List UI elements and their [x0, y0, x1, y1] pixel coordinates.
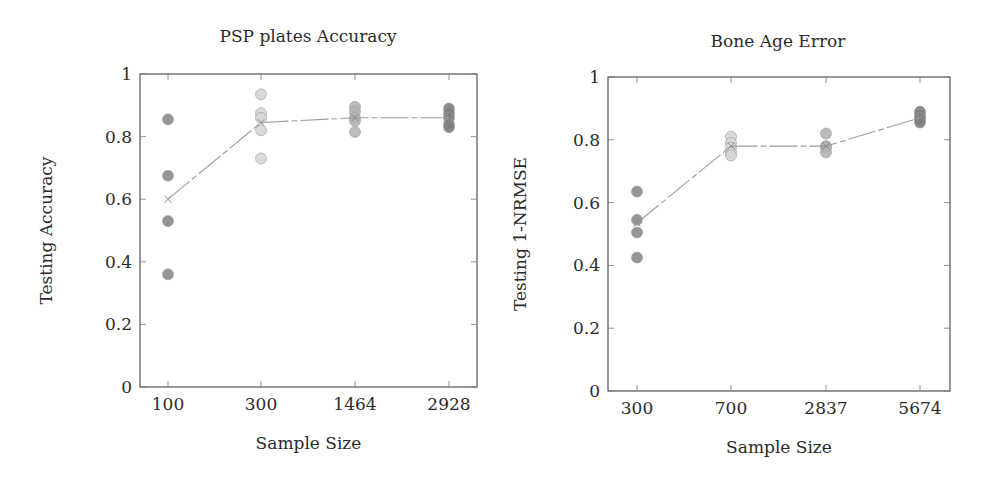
- y-tick-label: 1: [589, 67, 600, 87]
- data-point: [350, 115, 361, 126]
- data-point: [350, 126, 361, 137]
- y-tick-label: 0.8: [105, 127, 132, 147]
- data-point: [821, 128, 832, 139]
- data-point: [632, 186, 643, 197]
- data-point: [163, 170, 174, 181]
- charts-canvas: PSP plates Accuracy00.20.40.60.811003001…: [0, 0, 990, 483]
- data-point: [256, 153, 267, 164]
- x-tick-label: 300: [621, 398, 653, 418]
- y-tick-label: 0.6: [573, 193, 600, 213]
- data-point: [632, 227, 643, 238]
- x-tick-label: 300: [245, 394, 277, 414]
- mean-marker-icon: [165, 196, 172, 203]
- data-point: [256, 89, 267, 100]
- y-tick-label: 0.2: [573, 318, 600, 338]
- y-tick-label: 0.8: [573, 130, 600, 150]
- x-tick-label: 5674: [898, 398, 941, 418]
- y-tick-label: 0.2: [105, 314, 132, 334]
- plot-frame: [140, 74, 477, 387]
- data-point: [726, 150, 737, 161]
- data-point: [163, 269, 174, 280]
- chart-2: Bone Age Error00.20.40.60.81300700283756…: [510, 31, 950, 457]
- x-tick-label: 1464: [333, 394, 376, 414]
- data-point: [256, 125, 267, 136]
- y-tick-label: 0.4: [105, 252, 132, 272]
- x-tick-label: 100: [152, 394, 184, 414]
- data-point: [256, 112, 267, 123]
- y-tick-label: 0.6: [105, 189, 132, 209]
- chart-title: PSP plates Accuracy: [219, 26, 396, 46]
- mean-line: [637, 118, 920, 223]
- y-tick-label: 0.4: [573, 255, 600, 275]
- data-point: [444, 122, 455, 133]
- x-tick-label: 2928: [427, 394, 470, 414]
- x-axis-label: Sample Size: [256, 433, 362, 453]
- y-axis-label: Testing Accuracy: [36, 156, 56, 304]
- y-tick-label: 0: [121, 377, 132, 397]
- y-tick-label: 0: [589, 381, 600, 401]
- y-tick-label: 1: [121, 64, 132, 84]
- data-point: [163, 216, 174, 227]
- chart-1: PSP plates Accuracy00.20.40.60.811003001…: [36, 26, 477, 453]
- x-axis-label: Sample Size: [726, 437, 832, 457]
- mean-line: [168, 118, 449, 199]
- data-point: [632, 252, 643, 263]
- x-tick-label: 2837: [804, 398, 847, 418]
- chart-title: Bone Age Error: [711, 31, 847, 51]
- x-tick-label: 700: [715, 398, 747, 418]
- data-point: [163, 114, 174, 125]
- data-point: [821, 147, 832, 158]
- data-point: [915, 117, 926, 128]
- y-axis-label: Testing 1-NRMSE: [510, 157, 530, 311]
